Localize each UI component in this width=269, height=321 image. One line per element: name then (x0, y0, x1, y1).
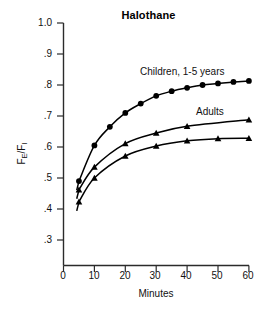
data-point-circle (215, 81, 221, 87)
series-2 (76, 116, 253, 198)
data-point-circle (138, 101, 144, 107)
data-point-circle (153, 93, 159, 99)
data-point-circle (122, 110, 128, 116)
data-point-circle (246, 78, 252, 84)
x-axis-ticks (64, 266, 249, 273)
series-1 (76, 78, 252, 190)
data-point-triangle (122, 140, 129, 146)
series-line (79, 138, 249, 202)
data-point-circle (231, 79, 237, 85)
series-3 (76, 135, 253, 211)
plot-area (0, 0, 269, 321)
data-point-triangle (76, 199, 83, 205)
data-point-circle (92, 143, 98, 149)
data-point-circle (184, 85, 190, 91)
data-point-circle (200, 82, 206, 88)
data-point-circle (107, 124, 113, 130)
y-axis-ticks (57, 23, 64, 240)
data-point-circle (169, 88, 175, 94)
halothane-chart-figure: Halothane FE/FI Minutes 1.0 .9 .8 .7 .6 … (0, 0, 269, 321)
data-series-layer (76, 78, 253, 211)
series-line (79, 120, 249, 190)
data-point-circle (76, 178, 82, 184)
